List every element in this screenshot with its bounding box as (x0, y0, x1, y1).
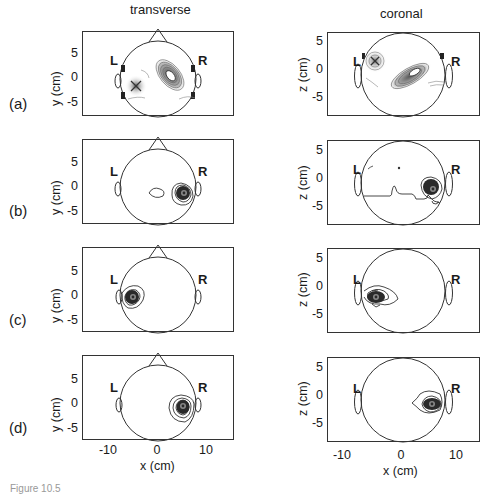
y-tick: -5 (58, 313, 78, 327)
nose-icon (149, 29, 167, 42)
plot-area (327, 248, 480, 333)
z-tick: 0 (303, 171, 323, 185)
x-axis-label: x (cm) (140, 459, 175, 473)
column-title-coronal: coronal (380, 6, 423, 21)
left-side-label: L (353, 381, 361, 396)
plot-area (82, 247, 234, 332)
plot-area (327, 140, 480, 225)
head-contour-map (328, 33, 481, 117)
z-tick: 5 (303, 34, 323, 48)
head-contour-map (328, 249, 481, 334)
head-contour-map (328, 358, 481, 443)
left-side-label: L (110, 164, 118, 179)
x-tick: -10 (327, 448, 357, 462)
left-electrode-bottom (121, 92, 125, 99)
z-tick: 0 (303, 279, 323, 293)
right-side-label: R (198, 164, 207, 179)
left-ear (116, 290, 122, 304)
z-tick: 5 (303, 143, 323, 157)
left-ear (116, 398, 122, 412)
y-tick: 0 (58, 179, 78, 193)
nose-icon (149, 245, 167, 258)
x-tick: 0 (386, 448, 416, 462)
right-side-label: R (451, 381, 460, 396)
left-side-label: L (353, 54, 361, 69)
right-side-label: R (451, 54, 460, 69)
plot-area (82, 139, 234, 224)
x-tick: 10 (441, 448, 471, 462)
y-tick: -5 (58, 421, 78, 435)
plot-area (327, 357, 480, 442)
z-tick: -5 (303, 307, 323, 321)
head-contour-map (83, 356, 235, 441)
head-contour-map (83, 248, 235, 333)
z-tick: -5 (303, 90, 323, 104)
z-tick: 0 (303, 62, 323, 76)
x-axis-label: x (cm) (383, 464, 418, 478)
x-tick: 0 (142, 443, 172, 457)
row-label-c: (c) (9, 311, 27, 328)
y-tick: 5 (58, 264, 78, 278)
z-tick: -5 (303, 416, 323, 430)
y-tick: 5 (58, 155, 78, 169)
z-tick: -5 (303, 199, 323, 213)
plot-area (82, 31, 234, 116)
right-electrode-top (191, 65, 195, 72)
right-side-label: R (451, 272, 460, 287)
y-tick: 0 (58, 288, 78, 302)
head-contour-map (83, 140, 235, 225)
left-side-label: L (110, 380, 118, 395)
z-tick: 5 (303, 251, 323, 265)
row-label-d: (d) (9, 419, 27, 436)
left-side-label: L (353, 272, 361, 287)
y-tick: 0 (58, 70, 78, 84)
y-tick: 5 (58, 372, 78, 386)
right-side-label: R (451, 162, 460, 177)
left-electrode-top (121, 65, 125, 72)
left-side-label: L (110, 272, 118, 287)
y-tick: 5 (58, 46, 78, 60)
left-side-label: L (353, 162, 361, 177)
head-contour-map (83, 32, 235, 117)
figure-caption: Figure 10.5 (10, 483, 61, 494)
x-tick: -10 (93, 443, 123, 457)
row-label-b: (b) (9, 202, 27, 219)
right-side-label: R (198, 272, 207, 287)
right-side-label: R (198, 53, 207, 68)
nose-icon (149, 353, 167, 366)
plot-area (82, 355, 234, 440)
head-contour-map (328, 141, 481, 226)
row-label-a: (a) (9, 95, 27, 112)
left-side-label: L (110, 53, 118, 68)
column-title-transverse: transverse (130, 2, 191, 17)
y-tick: 0 (58, 396, 78, 410)
z-tick: 5 (303, 360, 323, 374)
x-tick: 10 (191, 443, 221, 457)
z-tick: 0 (303, 388, 323, 402)
nose-icon (149, 137, 167, 150)
y-tick: -5 (58, 95, 78, 109)
right-side-label: R (198, 380, 207, 395)
plot-area (327, 32, 480, 116)
y-tick: -5 (58, 204, 78, 218)
